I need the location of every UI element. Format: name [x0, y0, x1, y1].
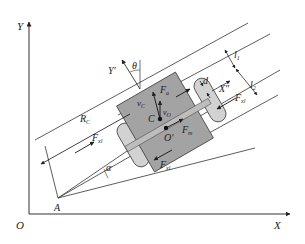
vehicle-diagram: Y X O Y′ θ C O′ vC	[0, 0, 305, 244]
body-x-axis-label: X″	[218, 83, 230, 94]
y-axis-label: Y	[17, 20, 25, 32]
alpha-label: α	[106, 162, 112, 173]
svg-text:Fxl: Fxl	[234, 92, 246, 104]
point-o-prime-label: O′	[164, 132, 174, 143]
force-right-vector: Fxl	[217, 92, 246, 109]
l1-dimension: l1	[225, 49, 240, 68]
theta-label: θ	[132, 60, 137, 71]
point-c-label: C	[148, 113, 155, 124]
x-axis-label: X	[273, 219, 282, 231]
body-y-axis-label: Y′	[108, 65, 117, 76]
point-a-label: A	[53, 202, 61, 213]
origin-label: O	[16, 219, 24, 231]
turn-radius-dimension: RC	[41, 113, 130, 164]
svg-text:Fxl: Fxl	[91, 132, 103, 144]
svg-text:l2: l2	[250, 79, 256, 91]
svg-text:RC: RC	[79, 113, 91, 125]
